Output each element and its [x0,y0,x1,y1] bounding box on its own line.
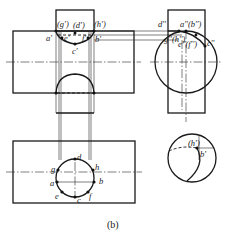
label-detail-b: b' [200,149,206,159]
label-a-prime: a' [46,33,52,43]
label-e: e [55,191,59,201]
label-b: b [99,176,103,186]
label-g-prime: (g') [57,19,69,29]
detail-view: (h') b' [168,134,216,182]
label-g: g [51,164,55,174]
label-a: a [50,178,54,188]
label-f: f [89,191,93,201]
label-d-prime: (d') [73,20,85,30]
label-c-prime: c' [72,46,78,56]
front-lower-arch [56,74,94,93]
top-horizontal-cylinder [13,141,135,203]
label-c: c [77,195,81,205]
projection-drawing: (g') (d') (h') a' b' e' f' c' d'' a''(b'… [0,0,226,238]
top-view: d g h a b e f c [6,141,142,205]
label-ab-double-prime: a''(b'') [180,19,202,29]
figure-caption: (b) [107,219,119,231]
label-e-prime: e' [64,33,70,43]
side-view: d'' a''(b'') g''(h'') e''(f'') c'' [150,10,222,122]
label-b-prime: b' [95,34,101,44]
label-ef-double-prime: e''(f'') [178,39,197,49]
label-c-double-prime: c'' [207,38,215,48]
front-view: (g') (d') (h') a' b' e' f' c' [6,10,182,160]
label-f-prime: f' [82,33,86,43]
label-d-double-prime: d'' [158,19,166,29]
label-h: h [95,162,99,172]
label-h-prime: (h') [94,19,106,29]
label-detail-h: (h') [188,138,200,148]
